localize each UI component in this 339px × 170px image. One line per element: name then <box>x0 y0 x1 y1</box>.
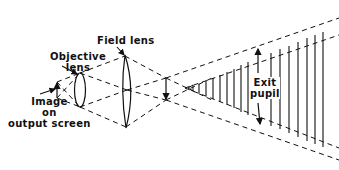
diagram-graphics <box>0 0 339 170</box>
field-lens-label: Field lens <box>97 35 154 46</box>
exit-pupil-label: Exit pupil <box>250 77 280 99</box>
image-text-3: output screen <box>8 118 91 129</box>
exit-pupil-text-2: pupil <box>250 88 280 99</box>
objective-lens-text-1: Objective <box>50 51 106 62</box>
field-lens-text: Field lens <box>97 35 154 46</box>
objective-lens-label: Objective lens <box>50 51 106 73</box>
image-text-2: on <box>8 107 91 118</box>
exit-pupil-text-1: Exit <box>250 77 280 88</box>
objective-lens-text-2: lens <box>50 62 106 73</box>
image-on-output-screen-label: Image on output screen <box>8 96 91 129</box>
image-text-1: Image <box>8 96 91 107</box>
optical-diagram: Field lens Objective lens Image on outpu… <box>0 0 339 170</box>
